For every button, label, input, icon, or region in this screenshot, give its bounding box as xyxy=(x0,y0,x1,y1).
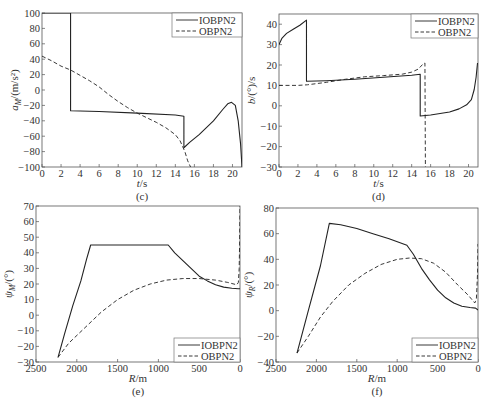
y-tick-label: 20 xyxy=(264,280,275,291)
x-tick-label: 14 xyxy=(406,168,417,179)
figure-canvas: 02468101214161820−100−80−60−40−200204060… xyxy=(0,0,486,411)
y-axis-label: aM/(m/s²) xyxy=(8,69,23,111)
x-tick-label: 6 xyxy=(97,168,102,179)
legend-label: IOBPN2 xyxy=(199,15,236,26)
chart-caption: (f) xyxy=(372,385,383,398)
y-tick-label: −20 xyxy=(24,100,40,111)
x-tick-label: 500 xyxy=(430,363,446,374)
y-tick-label: 40 xyxy=(30,54,41,65)
y-tick-label: 10 xyxy=(24,294,35,305)
x-axis-label: t/s xyxy=(373,177,383,189)
legend-label: IOBPN2 xyxy=(439,340,476,351)
y-tick-label: 80 xyxy=(30,23,41,34)
y-tick-label: 40 xyxy=(264,254,275,265)
y-tick-label: 0 xyxy=(29,310,34,321)
y-tick-label: −60 xyxy=(24,131,40,142)
y-axis-label: ψR/(°) xyxy=(242,272,257,299)
x-tick-label: 0 xyxy=(237,363,242,374)
x-tick-label: 0 xyxy=(39,168,44,179)
x-tick-label: 16 xyxy=(189,168,200,179)
y-axis-label: b/(°)/s xyxy=(245,77,258,105)
y-tick-label: 60 xyxy=(24,216,35,227)
series-line-obpn2 xyxy=(42,56,191,167)
legend-label: OBPN2 xyxy=(439,351,472,362)
series-line-obpn2 xyxy=(297,244,478,353)
chart-c: 02468101214161820−100−80−60−40−200204060… xyxy=(8,8,242,204)
y-tick-label: 20 xyxy=(24,279,35,290)
legend: IOBPN2OBPN2 xyxy=(174,338,240,362)
x-tick-label: 1000 xyxy=(387,363,408,374)
x-tick-label: 2 xyxy=(295,168,300,179)
y-tick-label: 30 xyxy=(267,39,278,50)
x-tick-label: 2 xyxy=(58,168,63,179)
y-tick-label: −10 xyxy=(261,121,277,132)
legend-label: IOBPN2 xyxy=(438,16,475,27)
y-tick-label: 60 xyxy=(264,228,275,239)
chart-e: 25002000150010005000−30−20−1001020304050… xyxy=(2,201,243,399)
y-axis-label: ψM/(°) xyxy=(2,270,17,298)
x-tick-label: 1500 xyxy=(107,363,128,374)
y-tick-label: −20 xyxy=(261,141,277,152)
series-line-obpn2 xyxy=(58,206,240,357)
y-tick-label: 60 xyxy=(30,38,41,49)
legend-label: OBPN2 xyxy=(201,351,234,362)
x-tick-label: 2000 xyxy=(66,363,87,374)
x-axis-label: R/m xyxy=(367,372,387,384)
legend: IOBPN2OBPN2 xyxy=(412,338,478,362)
series-line-obpn2 xyxy=(279,63,425,167)
series-group xyxy=(58,206,240,357)
x-tick-label: 1500 xyxy=(346,363,367,374)
y-tick-label: −20 xyxy=(258,331,274,342)
x-tick-label: 4 xyxy=(77,168,83,179)
series-group xyxy=(279,20,478,167)
legend-label: OBPN2 xyxy=(438,27,471,38)
y-tick-label: 80 xyxy=(264,203,275,214)
x-tick-label: 1000 xyxy=(148,363,169,374)
y-tick-label: 50 xyxy=(24,232,35,243)
x-tick-label: 4 xyxy=(314,168,320,179)
x-tick-label: 8 xyxy=(352,168,357,179)
y-tick-label: −40 xyxy=(258,357,274,368)
y-tick-label: 70 xyxy=(24,201,35,212)
y-tick-label: 0 xyxy=(269,305,274,316)
x-tick-label: 18 xyxy=(208,168,219,179)
x-tick-label: 12 xyxy=(151,168,162,179)
x-tick-label: 0 xyxy=(475,363,480,374)
y-tick-label: −10 xyxy=(18,325,34,336)
y-tick-label: −80 xyxy=(24,146,40,157)
x-tick-label: 6 xyxy=(333,168,338,179)
x-tick-label: 0 xyxy=(276,168,281,179)
x-tick-label: 18 xyxy=(444,168,455,179)
x-tick-label: 500 xyxy=(191,363,207,374)
legend: IOBPN2OBPN2 xyxy=(411,14,478,38)
legend: IOBPN2OBPN2 xyxy=(172,13,242,37)
chart-d: 02468101214161820−30−20−10010203040t/s(d… xyxy=(245,14,478,203)
x-tick-label: 14 xyxy=(170,168,181,179)
x-tick-label: 12 xyxy=(387,168,398,179)
chart-caption: (c) xyxy=(136,190,149,203)
y-tick-label: −40 xyxy=(24,115,40,126)
y-tick-label: 30 xyxy=(24,263,35,274)
y-tick-label: 0 xyxy=(272,100,277,111)
y-tick-label: 20 xyxy=(267,60,278,71)
legend-label: IOBPN2 xyxy=(201,340,238,351)
y-tick-label: −30 xyxy=(18,357,34,368)
y-tick-label: 100 xyxy=(24,8,40,19)
y-tick-label: 40 xyxy=(24,247,35,258)
y-tick-label: 20 xyxy=(30,69,41,80)
legend-label: OBPN2 xyxy=(199,26,232,37)
y-tick-label: −20 xyxy=(18,341,34,352)
y-tick-label: 40 xyxy=(267,19,278,30)
chart-f: 25002000150010005000−40−20020406080R/m(f… xyxy=(242,203,481,399)
y-tick-label: −100 xyxy=(18,162,40,173)
chart-caption: (d) xyxy=(372,190,385,203)
y-tick-label: −30 xyxy=(261,162,277,173)
y-tick-label: 0 xyxy=(35,85,40,96)
x-tick-label: 20 xyxy=(463,168,474,179)
x-tick-label: 20 xyxy=(227,168,238,179)
chart-caption: (e) xyxy=(132,385,145,398)
series-line-iobpn2 xyxy=(297,223,478,353)
x-axis-label: t/s xyxy=(137,177,147,189)
series-group xyxy=(297,223,478,353)
x-tick-label: 2000 xyxy=(306,363,327,374)
